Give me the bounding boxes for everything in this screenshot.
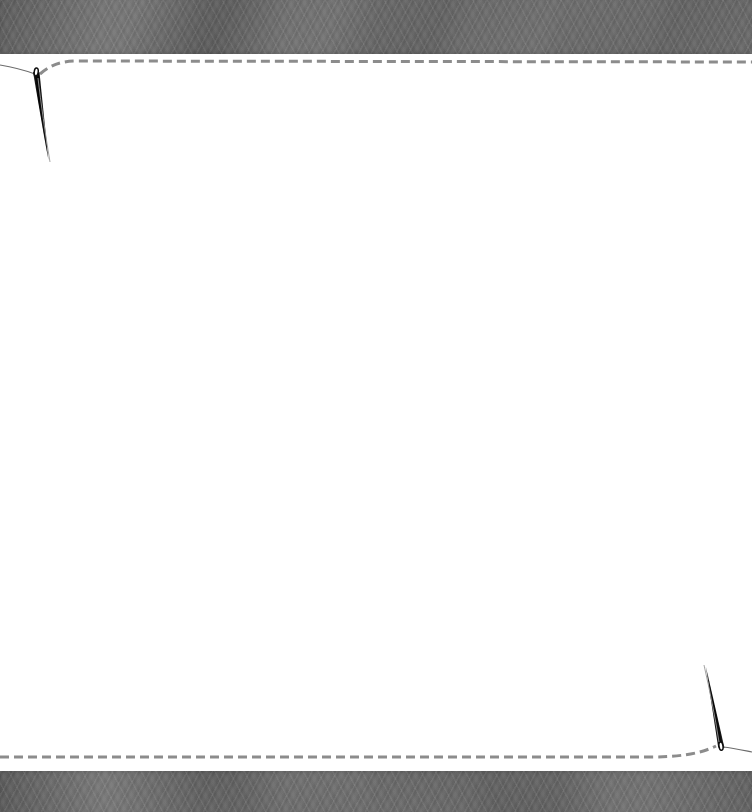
top-left-needle-highlight [35,76,48,155]
top-left-needle [33,72,49,161]
seam-and-needles-layer [0,0,752,812]
bottom-stitch-seam [0,746,716,757]
top-left-needle-eye [34,68,39,76]
top-stitch-seam [40,61,752,74]
stitching-illustration [0,0,752,812]
bottom-right-thread [723,747,752,752]
top-left-thread [0,65,35,74]
bottom-right-needle-eye [718,742,723,751]
